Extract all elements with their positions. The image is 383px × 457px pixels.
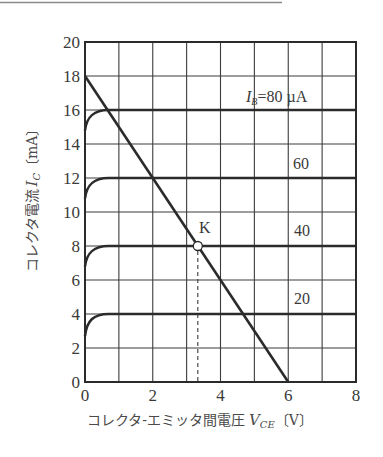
x-axis-label-unit: 〔V〕 [275,412,313,428]
operating-point-k-label: K [199,219,211,236]
y-axis-label-unit: 〔mA〕 [24,122,40,173]
ib-unit: µA [286,88,307,106]
y-tick-label: 2 [72,339,81,358]
ib-value: =80 [257,88,282,105]
x-axis-label-text: コレクタ-エミッタ間電圧 [87,412,245,428]
y-tick-label: 12 [63,169,80,188]
ib-20-label: 20 [294,290,310,307]
x-axis-label-sub: CE [260,419,276,430]
x-tick-label: 6 [284,386,293,405]
x-tick-label: 8 [352,386,361,405]
x-tick-label: 4 [216,386,225,405]
x-axis-ticks: 02468 [81,386,361,405]
y-tick-label: 6 [72,271,81,290]
grid [85,42,356,382]
x-axis-label: コレクタ-エミッタ間電圧VCE〔V〕 [87,411,313,430]
y-tick-label: 20 [63,33,80,52]
ib-40-label: 40 [294,222,310,239]
y-tick-label: 18 [63,67,80,86]
operating-point-k-marker [193,242,202,251]
y-axis-label: コレクタ電流IC〔mA〕 [23,122,42,273]
y-axis-ticks: 02468101214161820 [63,33,81,392]
x-tick-label: 0 [81,386,90,405]
y-tick-label: 0 [72,373,81,392]
x-tick-label: 2 [149,386,158,405]
y-tick-label: 8 [72,237,81,256]
y-tick-label: 10 [63,203,80,222]
ib-vce-characteristic-chart: K 02468101214161820 02468 IB=80µA 60 40 … [0,0,383,457]
y-tick-label: 16 [63,101,80,120]
y-tick-label: 14 [63,135,81,154]
y-axis-label-text: コレクタ電流 [24,189,40,272]
ib-60-label: 60 [293,155,309,172]
y-tick-label: 4 [72,305,81,324]
svg-text:コレクタ電流IC〔mA〕: コレクタ電流IC〔mA〕 [23,122,42,273]
